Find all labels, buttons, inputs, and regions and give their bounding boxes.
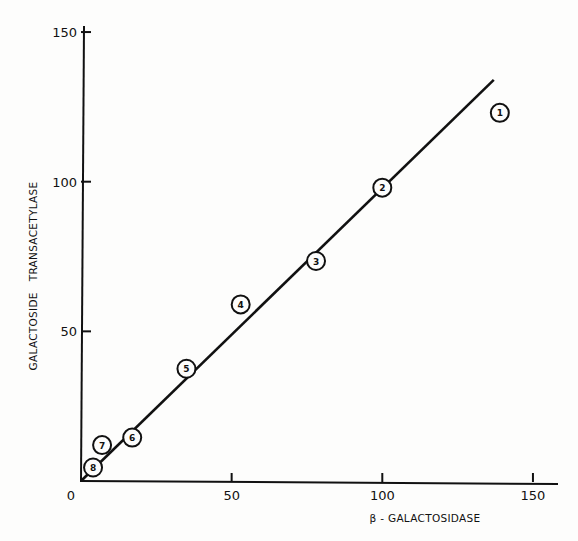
scatter-chart: 50100150 050100150 12345678 GALACTOSIDE … xyxy=(0,0,578,541)
point-label: 6 xyxy=(129,433,135,443)
x-tick-label: 50 xyxy=(223,488,240,503)
data-points: 12345678 xyxy=(84,104,509,477)
data-point-5: 5 xyxy=(177,360,195,378)
data-point-4: 4 xyxy=(232,295,250,313)
point-label: 2 xyxy=(379,183,385,193)
y-ticks: 50100150 xyxy=(52,25,91,339)
y-tick-label: 50 xyxy=(60,324,77,339)
data-point-6: 6 xyxy=(123,429,141,447)
data-point-2: 2 xyxy=(373,179,391,197)
regression-line xyxy=(81,80,494,481)
y-tick-label: 100 xyxy=(52,175,77,190)
point-label: 8 xyxy=(90,463,96,473)
x-tick-label: 0 xyxy=(67,488,75,503)
data-point-8: 8 xyxy=(84,459,102,477)
y-axis-title: GALACTOSIDE TRANSACETYLASE xyxy=(27,182,39,371)
x-tick-label: 100 xyxy=(370,488,395,503)
data-point-1: 1 xyxy=(491,104,509,122)
point-label: 4 xyxy=(238,300,244,310)
x-axis-title: β - GALACTOSIDASE xyxy=(370,512,481,524)
x-tick-label: 150 xyxy=(521,488,546,503)
x-ticks: 050100150 xyxy=(67,473,546,503)
data-point-7: 7 xyxy=(93,436,111,454)
point-label: 5 xyxy=(183,364,189,374)
x-axis xyxy=(81,481,558,484)
data-point-3: 3 xyxy=(307,252,325,270)
point-label: 3 xyxy=(313,257,319,267)
y-tick-label: 150 xyxy=(52,25,77,40)
y-axis xyxy=(81,26,84,482)
point-label: 7 xyxy=(99,441,105,451)
point-label: 1 xyxy=(497,108,503,118)
